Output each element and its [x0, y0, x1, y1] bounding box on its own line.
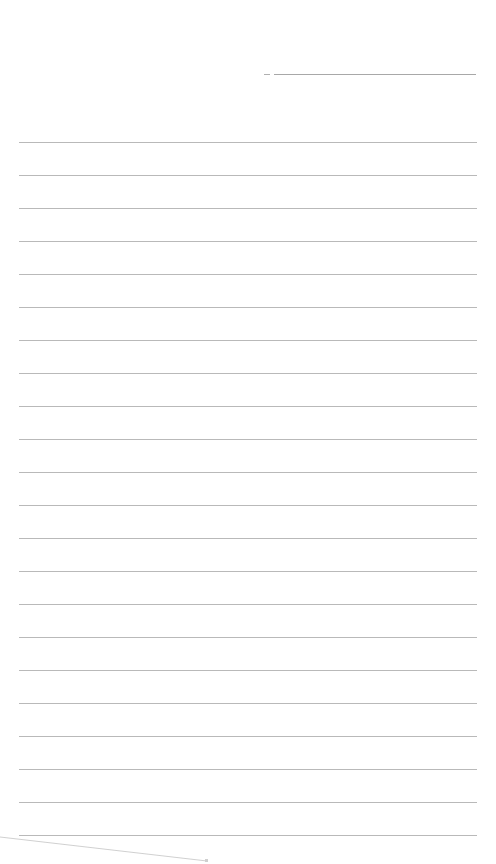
stray-pencil-mark: [0, 0, 496, 864]
ruled-page: [0, 0, 496, 864]
